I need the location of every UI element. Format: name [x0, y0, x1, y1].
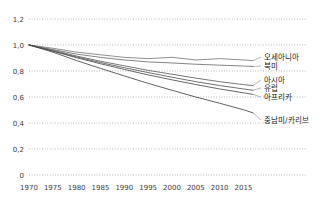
y-axis-tick-labels: 00,20,40,60,81,01,2 [13, 16, 25, 180]
data-series-lines [29, 45, 253, 113]
x-axis-tick-label: 1980 [68, 184, 86, 192]
x-axis-tick-label: 1995 [139, 184, 157, 192]
leader-line [253, 88, 261, 90]
y-axis-tick-label: 0,6 [13, 94, 25, 102]
leader-line [253, 113, 261, 120]
series-label: 유럽 [264, 84, 278, 93]
series-labels: 오세아니아북미아시아유럽아프리카중남미/카리브 [264, 52, 309, 125]
x-axis-tick-label: 2000 [163, 184, 181, 192]
leader-line [253, 94, 261, 97]
data-line [29, 45, 253, 113]
y-axis-tick-label: 1,2 [13, 16, 24, 24]
series-label: 북미 [264, 62, 278, 71]
series-label: 오세아니아 [264, 52, 299, 62]
x-axis-tick-label: 2005 [187, 184, 205, 192]
x-axis-tick-label: 1990 [115, 184, 133, 192]
leader-line [253, 66, 261, 67]
x-axis-tick-label: 1985 [92, 184, 110, 192]
x-axis-tick-label: 2010 [211, 184, 229, 192]
y-axis-tick-label: 1,0 [13, 42, 24, 50]
label-leader-lines [253, 57, 261, 120]
series-label: 중남미/카리브 [264, 116, 309, 125]
line-chart: 00,20,40,60,81,01,2 19701975198019851990… [0, 0, 320, 204]
y-axis-tick-label: 0 [20, 172, 24, 180]
series-label: 아프리카 [264, 92, 292, 102]
y-axis-tick-label: 0,2 [13, 146, 24, 154]
leader-line [253, 80, 261, 86]
leader-line [253, 57, 261, 61]
chart-container: 00,20,40,60,81,01,2 19701975198019851990… [0, 0, 320, 204]
x-axis-tick-label: 1970 [20, 184, 38, 192]
x-axis-tick-label: 2015 [235, 184, 253, 192]
x-axis-tick-label: 1975 [44, 184, 62, 192]
y-axis-tick-label: 0,4 [13, 120, 25, 128]
y-axis-tick-label: 0,8 [13, 68, 24, 76]
x-axis-tick-labels: 1970197519801985199019952000200520102015 [20, 184, 252, 192]
